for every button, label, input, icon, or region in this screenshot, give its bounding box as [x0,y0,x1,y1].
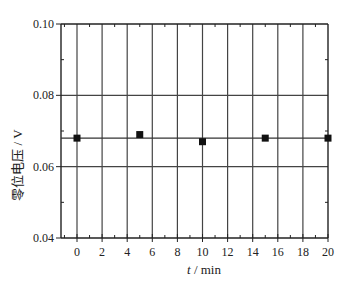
axis-ticks [56,24,328,242]
y-tick-labels: 0.040.060.080.10 [33,17,54,245]
x-tick-label: 14 [247,245,259,259]
data-point-square [199,138,206,145]
zero-voltage-chart: 0.040.060.080.10 02468101214161820 零位电压 … [0,0,353,290]
y-tick-label: 0.08 [33,88,54,102]
y-axis-label: 零位电压 / V [10,129,25,201]
x-tick-label: 18 [297,245,309,259]
x-axis-label: t / min [187,262,221,277]
x-tick-label: 20 [322,245,334,259]
x-tick-label: 2 [99,245,105,259]
y-tick-label: 0.06 [33,160,54,174]
x-tick-label: 12 [222,245,234,259]
x-tick-label: 4 [124,245,130,259]
data-point-square [74,135,81,142]
x-tick-label: 10 [197,245,209,259]
x-axis-unit: / min [191,262,222,277]
data-point-square [325,135,332,142]
grid-lines [61,24,328,238]
x-tick-label: 6 [149,245,155,259]
plot-frame [61,24,328,238]
y-tick-label: 0.04 [33,231,54,245]
x-tick-labels: 02468101214161820 [74,245,334,259]
x-tick-label: 0 [74,245,80,259]
x-tick-label: 8 [174,245,180,259]
data-point-square [262,135,269,142]
data-point-square [136,131,143,138]
x-tick-label: 16 [272,245,284,259]
y-tick-label: 0.10 [33,17,54,31]
